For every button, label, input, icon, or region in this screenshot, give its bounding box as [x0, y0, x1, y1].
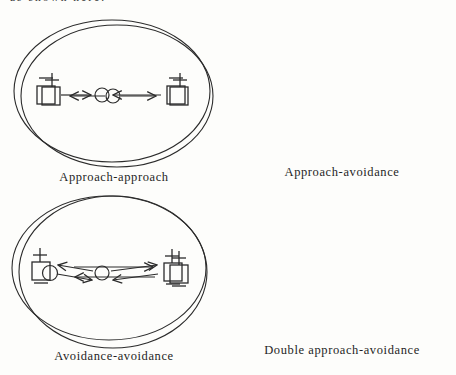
person-circle	[95, 88, 109, 102]
plus-sign	[165, 249, 179, 263]
approach-avoidance-diagram	[0, 0, 228, 188]
situation-ellipse	[12, 196, 206, 340]
arrow-away-left	[58, 265, 93, 271]
goal-box-right	[167, 78, 185, 104]
panel-approach-avoidance	[0, 0, 228, 188]
caption-double-approach-avoidance: Double approach-avoidance	[228, 343, 456, 358]
goal-box-left	[32, 248, 50, 283]
arrow-away-right	[111, 265, 157, 271]
person-circle	[95, 266, 109, 280]
double-approach-avoidance-diagram	[0, 188, 228, 375]
arrow-toward-person-left	[57, 274, 92, 280]
panel-double-approach-avoidance	[0, 188, 228, 375]
goal-box-left	[37, 78, 55, 104]
situation-ellipse	[14, 20, 210, 162]
plus-sign	[33, 248, 47, 262]
goal-box-right	[164, 249, 182, 284]
arrow-toward-person-right	[113, 274, 158, 280]
caption-approach-avoidance: Approach-avoidance	[228, 165, 456, 180]
figure-page: as shown here.	[0, 0, 456, 375]
